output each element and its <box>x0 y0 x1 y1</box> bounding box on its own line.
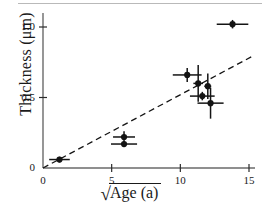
data-point-group-0 <box>49 156 70 162</box>
data-marker-3 <box>184 72 190 78</box>
data-point-group-2 <box>111 141 137 147</box>
data-marker-6 <box>199 93 205 99</box>
data-point-group-8 <box>217 20 249 28</box>
x-tick-label-1: 5 <box>98 174 126 186</box>
data-marker-1 <box>121 134 127 140</box>
x-tick-label-0: 0 <box>29 174 57 186</box>
x-axis-label-radical-group: √Age (a) <box>101 183 162 203</box>
trend-line <box>43 57 252 168</box>
data-point-group-3 <box>173 68 202 82</box>
data-point-group-7 <box>198 88 224 119</box>
data-marker-2 <box>121 141 127 147</box>
data-marker-4 <box>195 80 201 86</box>
y-tick-label-1: 0.5 <box>7 91 35 103</box>
x-axis-label: √Age (a) <box>0 183 262 203</box>
scatter-plot-figure: Thickness (μm) √Age (a) 05101500.51.0 <box>0 0 262 210</box>
data-point-group-1 <box>113 131 135 142</box>
y-tick-label-2: 1.0 <box>7 20 35 32</box>
x-tick-label-2: 10 <box>166 174 194 186</box>
data-marker-0 <box>56 156 62 162</box>
data-marker-8 <box>229 21 235 27</box>
x-tick-label-3: 15 <box>235 174 262 186</box>
data-marker-7 <box>207 100 213 106</box>
y-tick-label-0: 0 <box>7 161 35 173</box>
